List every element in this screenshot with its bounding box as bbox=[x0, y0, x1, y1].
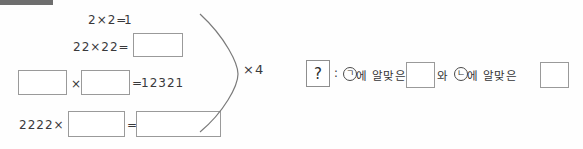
answer-box-row-3-right[interactable] bbox=[81, 70, 130, 95]
worksheet-canvas: 2×2= 1 22×22= × = 12321 2222× = ×4 ? : ㄱ… bbox=[0, 0, 583, 149]
prompt-colon: : bbox=[334, 66, 338, 80]
equation-row-3-result: 12321 bbox=[141, 77, 184, 89]
answer-box-row-4-right[interactable] bbox=[136, 111, 221, 137]
brace-multiplier-label: ×4 bbox=[243, 62, 264, 77]
answer-box-prompt-b[interactable] bbox=[540, 62, 569, 88]
answer-box-row-3-left[interactable] bbox=[18, 70, 67, 95]
circled-symbol-a: ㄱ bbox=[343, 67, 357, 81]
page-marker-bar bbox=[0, 0, 53, 5]
question-mark-glyph: ? bbox=[307, 61, 329, 86]
answer-box-prompt-a[interactable] bbox=[406, 62, 435, 88]
answer-box-row-2[interactable] bbox=[133, 33, 183, 57]
prompt-conjunction: 와 bbox=[437, 67, 449, 83]
prompt-text-b: 에 알맞은 bbox=[467, 67, 517, 83]
equation-row-1-expression: 2×2= bbox=[88, 14, 127, 26]
prompt-text-a: 에 알맞은 bbox=[356, 67, 406, 83]
equation-row-4-expression: 2222× bbox=[19, 119, 65, 131]
equation-row-1-result: 1 bbox=[124, 14, 133, 26]
question-mark-box: ? bbox=[306, 60, 330, 87]
equation-row-2-expression: 22×22= bbox=[73, 41, 130, 53]
answer-box-row-4-left[interactable] bbox=[68, 111, 125, 137]
circled-symbol-b: ㄴ bbox=[454, 67, 468, 81]
